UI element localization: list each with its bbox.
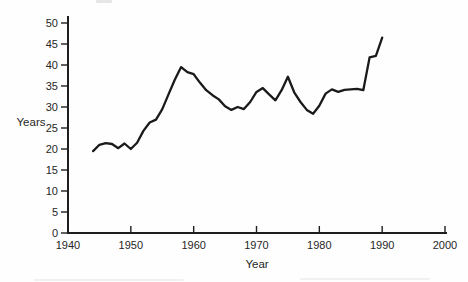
y-tick-label: 45 — [46, 38, 58, 50]
x-axis-title: Year — [245, 258, 268, 270]
y-tick-label: 50 — [46, 17, 58, 29]
figure-canvas: 0510152025303540455019401950196019701980… — [0, 0, 468, 282]
x-tick-label: 1960 — [181, 239, 205, 251]
data-series-years-line — [93, 38, 382, 151]
x-tick-label: 1970 — [244, 239, 268, 251]
line-chart: 0510152025303540455019401950196019701980… — [0, 0, 468, 282]
y-tick-label: 35 — [46, 80, 58, 92]
y-tick-label: 0 — [52, 227, 58, 239]
y-tick-label: 10 — [46, 185, 58, 197]
y-axis-title: Years — [17, 116, 46, 128]
chart-generated-layer: 0510152025303540455019401950196019701980… — [46, 16, 457, 251]
y-tick-label: 30 — [46, 101, 58, 113]
x-tick-label: 1980 — [307, 239, 331, 251]
x-tick-label: 1990 — [370, 239, 394, 251]
y-tick-label: 40 — [46, 59, 58, 71]
y-tick-label: 25 — [46, 122, 58, 134]
x-tick-label: 1940 — [56, 239, 80, 251]
y-tick-label: 5 — [52, 206, 58, 218]
y-tick-label: 15 — [46, 164, 58, 176]
x-tick-label: 1950 — [119, 239, 143, 251]
y-tick-label: 20 — [46, 143, 58, 155]
x-tick-label: 2000 — [433, 239, 457, 251]
